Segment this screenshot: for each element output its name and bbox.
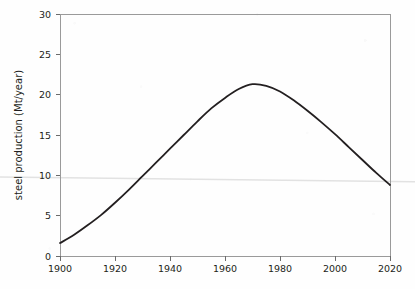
scan-artifact-line [0, 177, 415, 182]
x-tick-label-1920: 1920 [103, 263, 127, 274]
x-axis-tick-marks [60, 256, 390, 261]
y-tick-label-15: 15 [39, 130, 51, 141]
steel-production-line [60, 84, 390, 243]
x-tick-label-1900: 1900 [48, 263, 72, 274]
x-tick-label-1940: 1940 [158, 263, 182, 274]
y-axis-tick-labels: 0 5 10 15 20 25 30 [39, 9, 51, 262]
chart-plot-svg: 0 5 10 15 20 25 30 1900 1920 1940 1960 1… [0, 0, 415, 289]
y-tick-label-25: 25 [39, 49, 51, 60]
x-tick-label-2020: 2020 [378, 263, 402, 274]
y-tick-label-0: 0 [45, 251, 51, 262]
steel-production-chart-figure: 0 5 10 15 20 25 30 1900 1920 1940 1960 1… [0, 0, 415, 289]
y-axis-title: steel production (Mt/year) [13, 70, 24, 200]
x-axis-tick-labels: 1900 1920 1940 1960 1980 2000 2020 [48, 263, 402, 274]
y-axis-tick-marks [56, 14, 61, 256]
x-tick-label-2000: 2000 [323, 263, 347, 274]
y-tick-label-20: 20 [39, 89, 51, 100]
plot-area-frame [60, 14, 390, 256]
y-tick-label-30: 30 [39, 9, 51, 20]
y-tick-label-5: 5 [45, 210, 51, 221]
x-tick-label-1960: 1960 [213, 263, 237, 274]
x-tick-label-1980: 1980 [268, 263, 292, 274]
y-tick-label-10: 10 [39, 170, 51, 181]
